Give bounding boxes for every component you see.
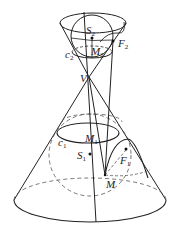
label-s1: S1 [77, 149, 87, 163]
label-m: M [105, 178, 116, 190]
lower-cone-left-edge [14, 77, 89, 200]
label-c1: c1 [58, 136, 67, 150]
label-m1: M1 [84, 132, 98, 146]
point-f1 [125, 148, 128, 151]
m-v-line [89, 77, 105, 175]
base-ellipse-front [14, 200, 166, 222]
dandelin-spheres-diagram: S2 F2 M2 c2 V M1 c1 S1 F1 M [0, 0, 171, 236]
label-f1: F1 [119, 154, 131, 168]
m-f2-line [105, 41, 113, 175]
label-s2: S2 [86, 24, 96, 38]
point-s1 [89, 153, 92, 156]
point-f2 [112, 40, 115, 43]
lower-cone [14, 12, 166, 222]
point-m [104, 174, 106, 176]
base-ellipse-back [14, 178, 166, 200]
generator-line [84, 12, 96, 222]
label-f2: F2 [117, 37, 129, 51]
